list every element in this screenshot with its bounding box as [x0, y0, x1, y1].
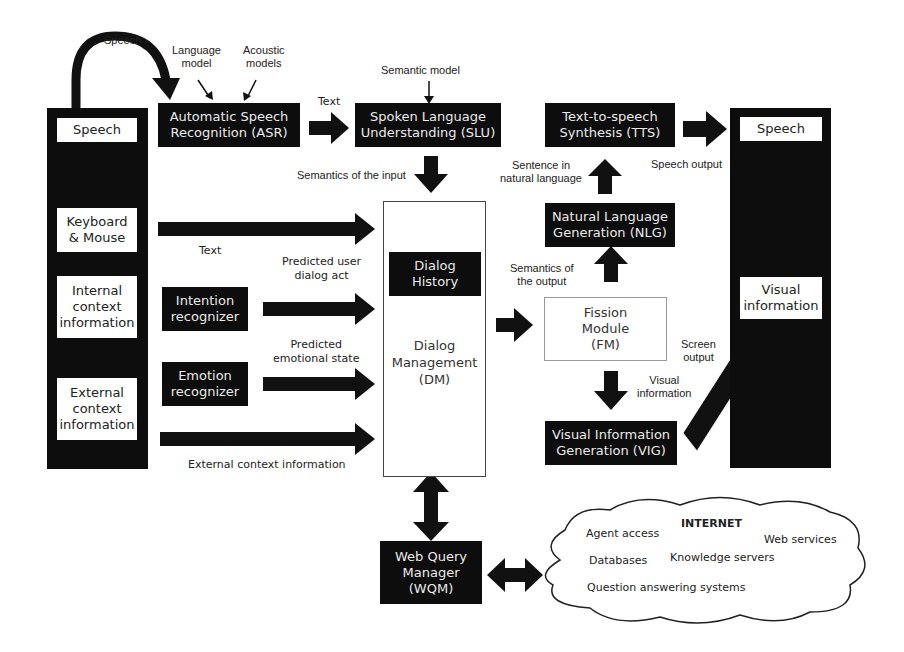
dm-label: Dialog Management (DM)	[384, 337, 485, 388]
internet-agent-access: Agent access	[586, 527, 659, 540]
visual-info-line1: Visual	[637, 374, 691, 387]
asr-line1: Automatic Speech	[170, 109, 289, 125]
input-speech: Speech	[57, 118, 137, 142]
output-speech: Speech	[740, 117, 822, 141]
predicted-user-line1: Predicted user	[282, 255, 361, 269]
wqm-line1: Web Query	[395, 549, 467, 565]
language-model-line1: Language	[172, 44, 221, 57]
tts-line2: Synthesis (TTS)	[560, 125, 661, 141]
screen-output-line1: Screen	[681, 338, 716, 351]
output-visual-line2: information	[743, 298, 818, 314]
sentence-line2: natural language	[500, 172, 582, 185]
fm-line3: (FM)	[591, 337, 620, 353]
internet-question-answering: Question answering systems	[587, 581, 745, 594]
emotion-line1: Emotion	[178, 368, 232, 384]
input-keyboard-mouse: Keyboard & Mouse	[57, 208, 137, 252]
wqm-module: Web Query Manager (WQM)	[380, 541, 482, 604]
fm-module: Fission Module (FM)	[544, 297, 667, 361]
label-visual-information: Visual information	[637, 374, 691, 400]
intention-line2: recognizer	[171, 309, 239, 325]
label-external-context: External context information	[188, 458, 346, 472]
internal-line1: Internal	[72, 283, 122, 299]
external-line2: context	[73, 401, 122, 417]
input-speech-label: Speech	[73, 122, 121, 138]
emotion-line2: recognizer	[171, 384, 239, 400]
nlg-line1: Natural Language	[552, 209, 668, 225]
external-line1: External	[70, 385, 124, 401]
fm-line1: Fission	[584, 305, 628, 321]
predicted-emotion-line1: Predicted	[273, 338, 359, 352]
label-language-model: Language model	[172, 44, 221, 70]
label-predicted-emotion: Predicted emotional state	[273, 338, 359, 366]
input-keyboard-line1: Keyboard	[66, 214, 127, 230]
slu-line2: Understanding (SLU)	[361, 125, 495, 141]
output-speech-label: Speech	[757, 121, 805, 137]
nlg-line2: Generation (NLG)	[553, 225, 667, 241]
label-semantic-model: Semantic model	[381, 64, 460, 77]
asr-module: Automatic Speech Recognition (ASR)	[158, 103, 300, 147]
internet-knowledge-servers: Knowledge servers	[670, 551, 775, 564]
predicted-emotion-line2: emotional state	[273, 352, 359, 366]
wqm-line3: (WQM)	[409, 581, 453, 597]
language-model-line2: model	[172, 57, 221, 70]
output-visual-information: Visual information	[740, 277, 822, 319]
tts-line1: Text-to-speech	[562, 109, 657, 125]
semantics-output-line2: the output	[510, 275, 574, 288]
internal-line2: context	[73, 299, 122, 315]
visual-info-line2: information	[637, 387, 691, 400]
label-keyboard-text: Text	[199, 244, 221, 258]
vig-module: Visual Information Generation (VIG)	[545, 421, 677, 465]
dialog-history-line2: History	[412, 274, 458, 290]
screen-output-line2: output	[681, 351, 716, 364]
label-predicted-user-act: Predicted user dialog act	[282, 255, 361, 283]
acoustic-models-line1: Acoustic	[243, 44, 285, 57]
label-semantics-input: Semantics of the input	[297, 169, 406, 182]
intention-recognizer: Intention recognizer	[162, 287, 248, 331]
internet-web-services: Web services	[764, 533, 837, 546]
input-keyboard-line2: & Mouse	[69, 230, 125, 246]
label-screen-output: Screen output	[681, 338, 716, 364]
predicted-user-line2: dialog act	[282, 269, 361, 283]
label-asr-text: Text	[318, 95, 340, 109]
label-speech-output: Speech output	[651, 158, 722, 171]
internal-line3: information	[59, 315, 134, 331]
input-external-context: External context information	[57, 378, 137, 440]
sentence-line1: Sentence in	[500, 159, 582, 172]
semantics-output-line1: Semantics of	[510, 262, 574, 275]
label-acoustic-models: Acoustic models	[243, 44, 285, 70]
slu-line1: Spoken Language	[370, 109, 486, 125]
fm-line2: Module	[582, 321, 629, 337]
emotion-recognizer: Emotion recognizer	[162, 362, 248, 406]
vig-line1: Visual Information	[552, 427, 670, 443]
tts-module: Text-to-speech Synthesis (TTS)	[545, 103, 675, 147]
external-line3: information	[59, 417, 134, 433]
output-visual-line1: Visual	[762, 282, 801, 298]
label-speech-loop: Speech	[104, 34, 141, 47]
acoustic-models-line2: models	[243, 57, 285, 70]
slu-module: Spoken Language Understanding (SLU)	[355, 103, 501, 147]
wqm-line2: Manager	[403, 565, 460, 581]
speech-loop-arrowhead	[152, 78, 180, 100]
intention-line1: Intention	[176, 293, 234, 309]
internet-databases: Databases	[589, 554, 647, 567]
label-sentence-natural: Sentence in natural language	[500, 159, 582, 185]
dm-line3: (DM)	[384, 371, 485, 388]
vig-line2: Generation (VIG)	[556, 443, 666, 459]
nlg-module: Natural Language Generation (NLG)	[545, 203, 675, 247]
dm-line1: Dialog	[384, 337, 485, 354]
label-semantics-output: Semantics of the output	[510, 262, 574, 288]
dialog-history: Dialog History	[389, 252, 481, 296]
internet-title: INTERNET	[681, 517, 742, 530]
input-internal-context: Internal context information	[57, 276, 137, 338]
asr-line2: Recognition (ASR)	[170, 125, 287, 141]
dialog-history-line1: Dialog	[414, 258, 455, 274]
dm-line2: Management	[384, 354, 485, 371]
